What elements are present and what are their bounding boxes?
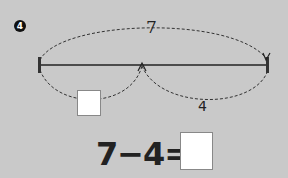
equation: 7−4= bbox=[96, 134, 190, 174]
equation-answer-box[interactable] bbox=[180, 132, 213, 170]
unknown-part-answer-box[interactable] bbox=[77, 90, 101, 116]
known-part-label: 4 bbox=[198, 98, 207, 114]
equation-left: 7 bbox=[96, 135, 117, 173]
arc-known bbox=[142, 66, 268, 100]
equation-right: 4 bbox=[143, 135, 164, 173]
equation-operator: − bbox=[117, 135, 143, 173]
total-label: 7 bbox=[146, 17, 157, 37]
